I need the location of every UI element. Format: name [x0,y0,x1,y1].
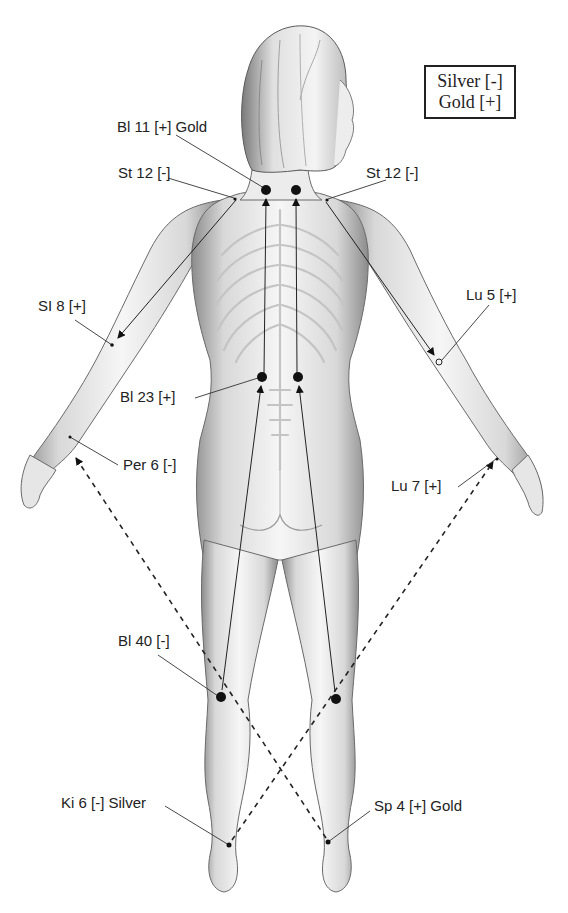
label-lu5: Lu 5 [+] [466,287,516,302]
label-ki6: Ki 6 [-] Silver [61,795,146,810]
label-si8: SI 8 [+] [38,298,86,313]
label-st12-left: St 12 [-] [118,165,171,180]
right-arm [338,200,542,508]
neck [240,170,322,200]
label-bl40: Bl 40 [-] [118,633,170,648]
label-per6: Per 6 [-] [123,457,176,472]
right-leg [282,540,359,892]
legend-gold: Gold [+] [426,92,514,113]
si8-dot [110,343,114,347]
bl40-right-dot [331,694,341,704]
bl40-left-dot [216,692,226,702]
st12-right-dot [325,198,328,201]
head [242,26,354,172]
label-bl23: Bl 23 [+] [120,389,175,404]
label-bl11: Bl 11 [+] Gold [117,119,207,134]
left-leg [201,540,278,892]
sp4-dot [326,840,331,845]
body-back-view-diagram [0,0,568,913]
lu7-dot [496,458,499,461]
left-arm [22,200,222,502]
hair [242,26,347,172]
ki6-dot [227,843,232,848]
st12-left-dot [233,197,236,200]
per6-dot [69,436,72,439]
label-lu7: Lu 7 [+] [391,478,441,493]
label-st12-right: St 12 [-] [366,165,419,180]
label-sp4: Sp 4 [+] Gold [374,798,462,813]
bl11-right-dot [291,185,301,195]
legend-silver: Silver [-] [426,71,514,92]
bl23-right-dot [293,372,303,382]
metal-polarity-legend: Silver [-] Gold [+] [424,65,516,119]
bl11-left-dot [261,185,271,195]
body-silhouette [21,170,543,892]
bl23-left-dot [257,372,267,382]
